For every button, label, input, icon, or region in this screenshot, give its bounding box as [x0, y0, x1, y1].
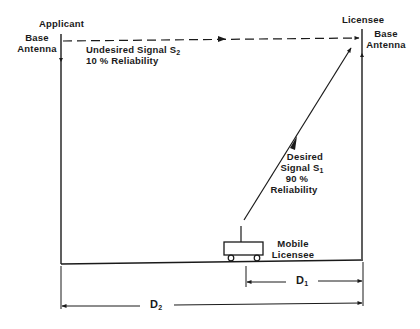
d2-arrow-right [174, 303, 362, 305]
undesired-signal-path [63, 38, 359, 41]
d2-label: D2 [150, 299, 162, 310]
applicant-base-antenna-label: Base Antenna [16, 32, 58, 54]
licensee-title: Licensee [342, 14, 384, 25]
applicant-title: Applicant [39, 18, 84, 29]
undesired-signal-mid-arrow [218, 36, 226, 42]
desired-signal-label: Desired Signal S1 90 % Reliability [270, 151, 326, 195]
licensee-base-text: Base [364, 28, 408, 39]
undesired-signal-label: Undesired Signal S2 10 % Reliability [86, 44, 180, 66]
licensee-antenna-text: Antenna [364, 39, 408, 50]
licensee-base-antenna-label: Base Antenna [364, 28, 408, 50]
licensee-label: Licensee [342, 14, 384, 25]
ground-line [61, 260, 363, 264]
desired-reliability-text: Reliability [262, 184, 326, 195]
d2-subscript: 2 [158, 304, 162, 311]
desired-signal-subscript: 1 [320, 167, 324, 174]
d1-text: D [296, 274, 304, 286]
mobile-vehicle-icon [224, 226, 263, 261]
licensee-text: Licensee [270, 249, 316, 260]
d1-subscript: 1 [304, 280, 308, 287]
interference-diagram [0, 0, 420, 329]
licensee-mast-marker [360, 53, 364, 57]
desired-text: Desired [270, 151, 326, 162]
mobile-licensee-label: Mobile Licensee [270, 238, 316, 260]
undesired-reliability-text: 10 % Reliability [86, 55, 180, 66]
undesired-signal-subscript: 2 [176, 49, 180, 56]
applicant-label: Applicant [39, 18, 84, 29]
undesired-signal-text: Undesired Signal S [86, 44, 176, 55]
d2-text: D [150, 298, 158, 310]
applicant-antenna-text: Antenna [16, 43, 58, 54]
applicant-mast-marker [59, 58, 63, 62]
d1-label: D1 [296, 275, 308, 286]
desired-percent-text: 90 % [270, 173, 326, 184]
applicant-base-text: Base [16, 32, 58, 43]
mobile-text: Mobile [270, 238, 316, 249]
desired-signal-mid-arrow [290, 136, 297, 150]
desired-signal-text: Signal S [280, 162, 319, 173]
